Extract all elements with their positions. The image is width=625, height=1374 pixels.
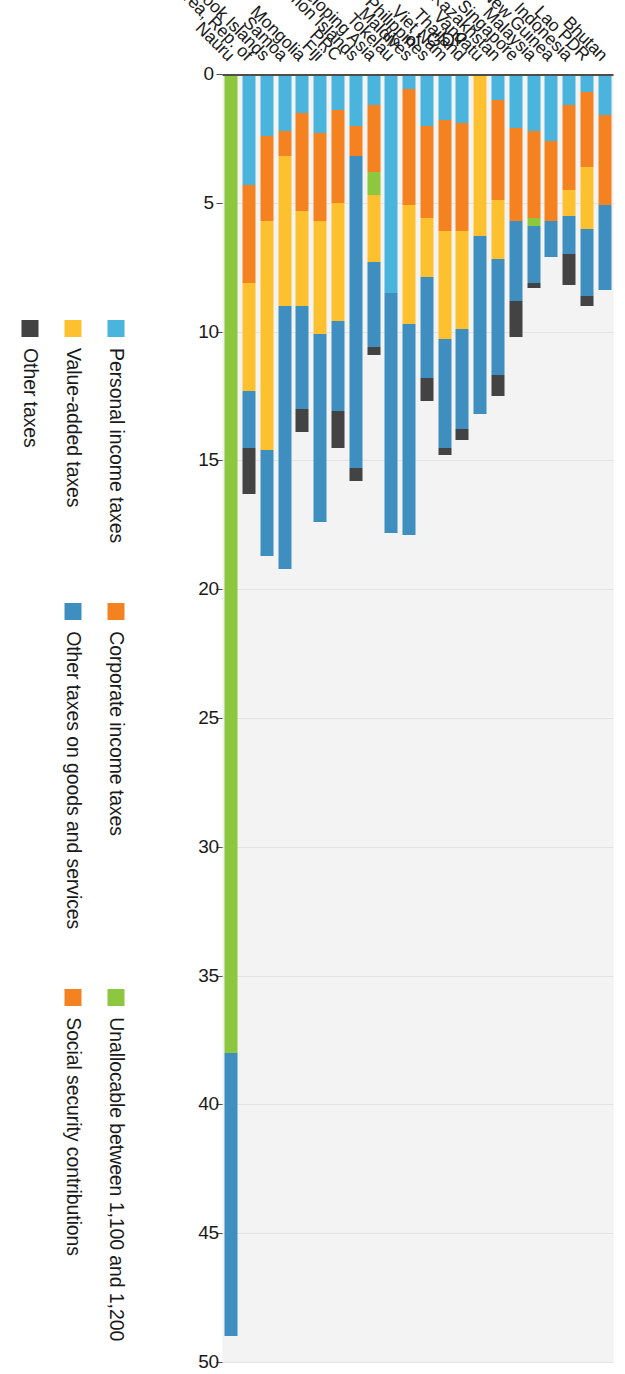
bar-segment [242, 185, 255, 283]
bar-segment [455, 74, 468, 123]
bar-segment [420, 378, 433, 401]
gridline [222, 1362, 613, 1363]
value-axis-tick-label: 5 [203, 192, 213, 214]
bar-papua-new-guinea [544, 74, 557, 257]
bar-segment [278, 131, 291, 157]
bar-segment [562, 105, 575, 190]
bar-vanuatu [473, 74, 486, 414]
bar-segment [402, 205, 415, 323]
legend-label: Value-added taxes [61, 348, 84, 507]
bar-segment [580, 74, 593, 92]
bar-segment [260, 136, 273, 221]
bar-segment [367, 262, 380, 347]
legend-item[interactable]: Other taxes on goods and services [61, 603, 84, 929]
legend-item[interactable]: Social security contributions [61, 989, 84, 1341]
bar-segment [562, 74, 575, 105]
legend-column: Unallocable between 1,100 and 1,200Socia… [18, 989, 127, 1341]
bar-solomon-islands [349, 74, 362, 481]
bar-segment [580, 92, 593, 167]
gridline [222, 718, 613, 719]
bar-segment [455, 429, 468, 439]
bar-segment [527, 74, 540, 131]
bar-segment [367, 74, 380, 105]
bar-segment [349, 468, 362, 481]
bar-segment [598, 205, 611, 290]
legend-swatch-icon [107, 603, 124, 620]
bar-segment [313, 74, 326, 133]
value-axis-line [222, 74, 613, 76]
legend-label: Other taxes on goods and services [61, 631, 84, 929]
bar-segment [580, 167, 593, 229]
bar-segment [509, 74, 522, 128]
legend-item[interactable]: Corporate income taxes [104, 603, 127, 929]
legend-item[interactable]: Other taxes [18, 320, 41, 543]
bar-segment [295, 74, 308, 113]
legend-label: Social security contributions [61, 1017, 84, 1256]
bar-segment [438, 120, 451, 231]
legend-label: Unallocable between 1,100 and 1,200 [104, 1017, 127, 1341]
value-axis-tick-label: 30 [198, 836, 218, 858]
chart-canvas: 05101520253035404550 % of GDP NauruKorea… [0, 0, 625, 1374]
bar-segment [509, 221, 522, 301]
bar-segment [562, 216, 575, 255]
bar-segment [527, 283, 540, 288]
bar-segment [438, 74, 451, 120]
bar-fiji [313, 74, 326, 522]
legend-item[interactable]: Unallocable between 1,100 and 1,200 [104, 989, 127, 1341]
legend-label: Personal income taxes [104, 348, 127, 543]
bar-segment [278, 74, 291, 131]
bar-segment [438, 448, 451, 456]
bar-segment [295, 211, 308, 306]
bar-segment [420, 277, 433, 377]
bar-thailand [455, 74, 468, 440]
bar-nauru [224, 74, 237, 1336]
bar-segment [455, 231, 468, 329]
bar-segment [242, 74, 255, 185]
plot-area [222, 74, 613, 1362]
legend-swatch-icon [64, 989, 81, 1006]
value-axis-tick-label: 50 [198, 1351, 218, 1373]
bar-developing-asia [367, 74, 380, 355]
bar-segment [491, 259, 504, 375]
bar-segment [260, 74, 273, 136]
bar-segment [313, 133, 326, 221]
value-axis-tick-label: 20 [198, 578, 218, 600]
bar-segment [349, 74, 362, 126]
bar-korea-rep-of [242, 74, 255, 494]
bar-segment [384, 74, 397, 293]
legend-column: Personal income taxesValue-added taxesOt… [18, 320, 127, 543]
bar-segment [402, 324, 415, 535]
bar-segment [491, 74, 504, 100]
bar-segment [331, 321, 344, 411]
bar-segment [331, 203, 344, 321]
legend-item[interactable]: Personal income taxes [104, 320, 127, 543]
value-axis-tick-label: 15 [198, 449, 218, 471]
bar-segment [438, 231, 451, 339]
legend-swatch-icon [107, 320, 124, 337]
value-axis-tick-label: 0 [203, 63, 213, 85]
legend-item[interactable]: Value-added taxes [61, 320, 84, 543]
legend-column: Corporate income taxesOther taxes on goo… [18, 603, 127, 929]
bar-segment [367, 105, 380, 172]
bar-segment [224, 74, 237, 1053]
gridline [222, 976, 613, 977]
bar-viet-nam [438, 74, 451, 455]
tick-mark [216, 74, 222, 75]
bar-segment [349, 126, 362, 157]
bar-segment [527, 218, 540, 226]
bar-segment [260, 450, 273, 556]
value-axis-tick-label: 40 [198, 1093, 218, 1115]
legend: Personal income taxesValue-added taxesOt… [18, 320, 127, 1300]
bar-prc [331, 74, 344, 448]
bar-segment [438, 339, 451, 447]
bar-segment [509, 128, 522, 221]
bar-segment [562, 254, 575, 285]
bar-segment [331, 110, 344, 203]
bar-segment [349, 156, 362, 468]
bar-segment [313, 334, 326, 522]
legend-swatch-icon [64, 603, 81, 620]
bar-segment [455, 329, 468, 429]
bar-segment [562, 190, 575, 216]
bar-segment [278, 156, 291, 305]
bar-segment [598, 74, 611, 115]
